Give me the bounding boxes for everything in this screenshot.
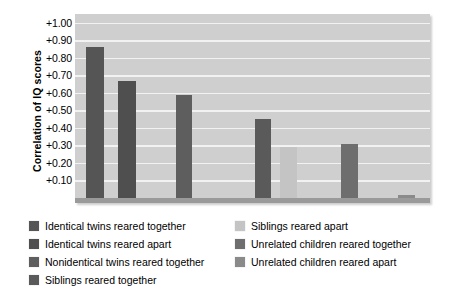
legend-swatch-icon [29,239,39,249]
y-tick-label: +0.90 [6,35,72,45]
legend-item-label: Identical twins reared apart [45,238,171,250]
y-tick-label: +0.10 [6,175,72,185]
legend-swatch-icon [29,221,39,231]
bar [255,119,271,198]
legend-item: Identical twins reared together [29,220,186,232]
legend-item-label: Siblings reared together [45,274,157,286]
legend-item: Siblings reared apart [235,220,348,232]
y-tick-label: +1.00 [6,18,72,28]
legend-item-label: Unrelated children reared together [251,238,411,250]
legend: Identical twins reared togetherIdentical… [29,220,449,300]
plot-area [75,14,430,203]
bar [86,47,104,198]
bar [176,95,192,198]
gridline [75,40,430,42]
gridline [75,75,430,77]
bar [341,144,358,198]
legend-item: Identical twins reared apart [29,238,171,250]
legend-swatch-icon [29,257,39,267]
gridline [75,23,430,25]
y-tick-label: +0.70 [6,70,72,80]
y-tick-label: +0.50 [6,105,72,115]
legend-item-label: Siblings reared apart [251,220,348,232]
legend-swatch-icon [29,275,39,285]
legend-swatch-icon [235,239,245,249]
y-tick-label: +0.80 [6,53,72,63]
legend-swatch-icon [235,221,245,231]
x-axis-baseline [75,198,430,203]
bar [118,81,136,198]
legend-item-label: Unrelated children reared apart [251,256,396,268]
iq-correlation-bar-chart: Correlation of IQ scores +1.00+0.90+0.80… [0,0,466,307]
legend-item: Nonidentical twins reared together [29,256,204,268]
y-tick-label: +0.30 [6,140,72,150]
legend-item-label: Nonidentical twins reared together [45,256,204,268]
legend-item: Unrelated children reared apart [235,256,396,268]
legend-item-label: Identical twins reared together [45,220,186,232]
legend-item: Siblings reared together [29,274,157,286]
legend-swatch-icon [235,257,245,267]
gridline [75,58,430,60]
y-tick-label: +0.40 [6,123,72,133]
bar [280,147,297,198]
y-tick-label: +0.60 [6,88,72,98]
y-tick-label: +0.20 [6,158,72,168]
legend-item: Unrelated children reared together [235,238,411,250]
